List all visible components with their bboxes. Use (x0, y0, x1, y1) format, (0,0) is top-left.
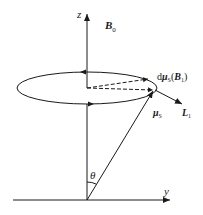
moment-vector (87, 91, 153, 200)
ellipse-arrow-bottom-icon (88, 102, 94, 107)
theta-arc (87, 182, 96, 184)
dashed-radius-1 (87, 79, 148, 88)
y-axis-label: y (163, 185, 169, 197)
torque-axis-label: L1 (181, 107, 191, 119)
change-label: dμS(B1) (157, 71, 187, 83)
dashed-radius-2 (87, 88, 153, 90)
torque-axis-vector (155, 90, 182, 104)
field-label: B0 (104, 19, 116, 34)
moment-label: μS (152, 107, 162, 119)
z-axis-label: z (76, 8, 82, 20)
precession-diagram: z y θ B0 dμS(B1) μS L1 (0, 0, 203, 215)
ellipse-arrow-top-icon (80, 70, 86, 75)
theta-label: θ (90, 169, 96, 181)
